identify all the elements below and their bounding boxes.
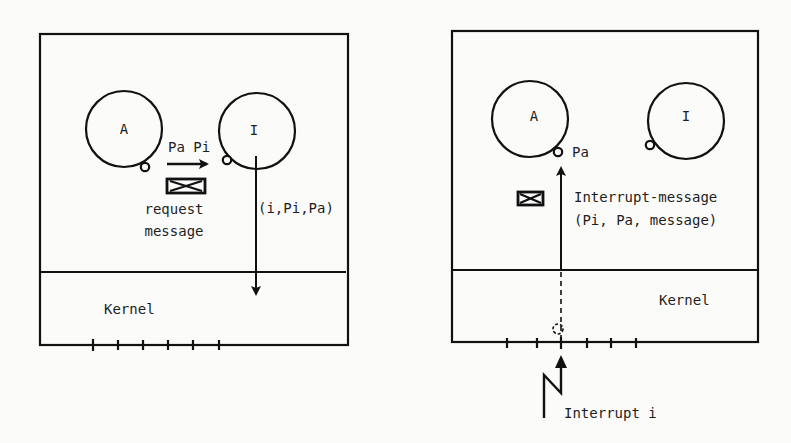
left-kernel-label: Kernel — [104, 301, 155, 317]
left-request-label-1: request — [144, 201, 203, 217]
right-process-a[interactable]: A — [492, 81, 568, 157]
left-kernel-call-label: (i,Pi,Pa) — [258, 200, 334, 216]
left-request-label-2: message — [144, 223, 203, 239]
right-port-label: Pa — [572, 144, 589, 160]
right-kernel-label: Kernel — [659, 292, 710, 308]
right-message-label-2: (Pi, Pa, message) — [574, 212, 717, 228]
right-port-i-icon — [646, 141, 654, 149]
left-panel: A I Pa Pi request message (i,Pi,Pa) Kern… — [40, 34, 348, 351]
right-message-label-1: Interrupt-message — [574, 189, 717, 205]
right-port-a-icon — [554, 148, 562, 156]
left-process-a-label: A — [120, 121, 129, 137]
diagram-canvas: A I Pa Pi request message (i,Pi,Pa) Kern… — [0, 0, 791, 443]
right-system-box — [452, 31, 758, 342]
right-process-i[interactable]: I — [646, 83, 724, 159]
left-port-i-icon — [223, 156, 231, 164]
right-interrupt-label: Interrupt i — [564, 405, 657, 421]
left-envelope-icon — [167, 179, 205, 193]
left-process-i-label: I — [250, 122, 258, 138]
left-port-a-icon — [141, 163, 149, 171]
right-process-i-label: I — [682, 108, 690, 124]
left-send-label: Pa Pi — [168, 139, 210, 155]
left-process-a[interactable]: A — [86, 91, 162, 171]
right-panel: A Pa I Interrupt-message (Pi, Pa, messag… — [452, 31, 758, 421]
right-process-a-label: A — [530, 108, 539, 124]
right-envelope-icon — [518, 192, 543, 205]
